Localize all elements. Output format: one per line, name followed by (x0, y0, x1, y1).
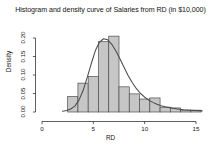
chart-plot-area: Density RD 0.000.050.100.150.20051015 (0, 0, 221, 152)
x-axis-tick-label: 10 (135, 125, 155, 132)
histogram-bar (140, 99, 150, 112)
histogram-bar (119, 87, 129, 112)
y-axis-label: Density (5, 40, 12, 84)
histogram-plot-figure: Histogram and density curve of Salaries … (0, 0, 221, 152)
histogram-bar (88, 76, 98, 112)
y-axis-tick-label: 0.20 (18, 27, 25, 49)
histogram-bar (129, 94, 139, 112)
x-axis-tick-label: 15 (186, 125, 206, 132)
x-axis-tick-label: 0 (32, 125, 52, 132)
histogram-bar (98, 42, 108, 112)
x-axis-tick-label: 5 (83, 125, 103, 132)
x-axis-label: RD (0, 134, 221, 141)
histogram-bar (78, 83, 88, 112)
